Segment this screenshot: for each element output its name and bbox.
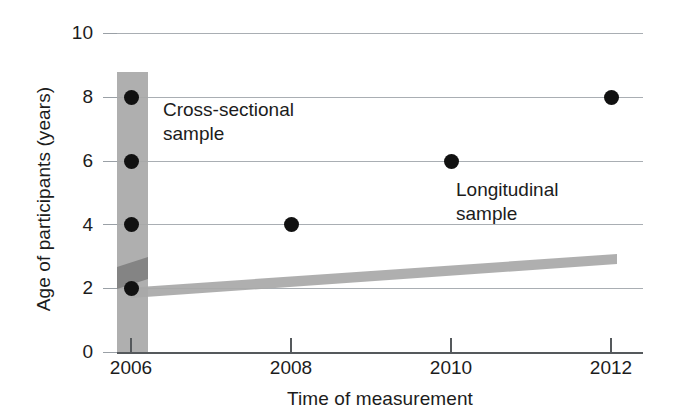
data-point-cross-8	[124, 90, 139, 105]
y-tick-mark-0	[103, 352, 117, 353]
chart-figure: Age of participants (years) Time of meas…	[0, 0, 681, 419]
y-tick-label-2: 2	[47, 277, 93, 299]
x-tick-mark-2008	[290, 338, 292, 352]
y-tick-mark-8	[103, 97, 117, 98]
x-tick-mark-2012	[610, 338, 612, 352]
data-point-cross-6	[124, 154, 139, 169]
x-tick-label-2012: 2012	[566, 357, 656, 379]
y-tick-mark-4	[103, 224, 117, 225]
y-tick-mark-10	[103, 33, 117, 34]
x-tick-label-2008: 2008	[246, 357, 336, 379]
y-tick-label-8: 8	[47, 86, 93, 108]
gridline-4	[117, 224, 643, 225]
x-tick-mark-2006	[130, 338, 132, 352]
data-point-cross-2	[124, 281, 139, 296]
gridline-10	[117, 33, 643, 34]
data-point-long-2012-8	[604, 90, 619, 105]
data-point-long-2010-6	[444, 154, 459, 169]
x-tick-mark-2010	[450, 338, 452, 352]
cross-sectional-label: Cross-sectional sample	[163, 98, 294, 146]
longitudinal-band	[125, 254, 617, 298]
plot-area	[117, 33, 643, 352]
data-point-long-2008-4	[284, 217, 299, 232]
cross-sectional-band	[117, 72, 148, 352]
x-axis-title: Time of measurement	[117, 388, 643, 410]
y-tick-label-10: 10	[47, 22, 93, 44]
x-tick-label-2006: 2006	[86, 357, 176, 379]
x-tick-label-2010: 2010	[406, 357, 496, 379]
gridline-6	[117, 161, 643, 162]
x-axis-line	[117, 352, 643, 354]
longitudinal-label: Longitudinal sample	[456, 178, 558, 226]
y-tick-mark-2	[103, 288, 117, 289]
y-tick-label-4: 4	[47, 214, 93, 236]
y-tick-mark-6	[103, 161, 117, 162]
data-point-cross-4	[124, 217, 139, 232]
y-tick-label-6: 6	[47, 150, 93, 172]
